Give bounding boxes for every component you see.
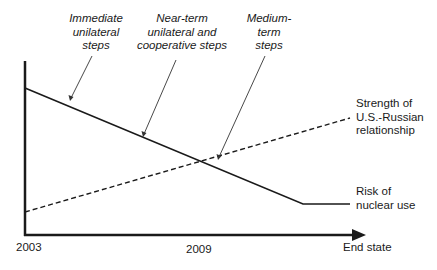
phase-label-line: steps [56,39,136,53]
x-axis-end-label: End state [343,241,392,255]
series-label-risk: Risk of nuclear use [356,185,415,212]
phase-label-line: Medium- [239,12,299,26]
nuclear-risk-diagram: Immediate unilateral steps Near-term uni… [0,0,437,270]
relationship-strength-line [25,118,350,212]
phase-label-medium-term: Medium- term steps [239,12,299,53]
x-axis-arrowhead-icon [352,229,366,241]
series-label-line: Strength of [356,97,424,111]
series-label-line: U.S.-Russian [356,111,424,125]
pointer-arrowhead-icon [69,95,74,101]
phase-label-line: cooperative steps [130,39,234,53]
phase-label-line: Immediate [56,12,136,26]
x-tick-2009: 2009 [186,243,212,257]
series-label-line: nuclear use [356,199,415,213]
phase-label-immediate: Immediate unilateral steps [56,12,136,53]
phase-label-line: unilateral and [130,26,234,40]
series-label-line: relationship [356,124,424,138]
x-tick-2003: 2003 [16,241,42,255]
pointer-near-term-steps [142,60,177,137]
series-label-relationship: Strength of U.S.-Russian relationship [356,97,424,138]
phase-label-line: unilateral [56,26,136,40]
phase-label-line: steps [239,39,299,53]
risk-of-nuclear-use-line [25,88,350,204]
pointer-immediate-steps [69,56,93,101]
phase-label-near-term: Near-term unilateral and cooperative ste… [130,12,234,53]
series-label-line: Risk of [356,185,415,199]
phase-label-line: term [239,26,299,40]
phase-label-line: Near-term [130,12,234,26]
